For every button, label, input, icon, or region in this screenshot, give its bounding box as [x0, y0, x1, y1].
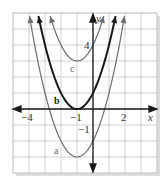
y-axis-label: y	[95, 12, 101, 24]
tick-label-x-neg1: −1	[70, 111, 82, 123]
tick-label-x-2: 2	[121, 111, 127, 123]
graph-svg: y x −4 −1 2 4 −1 a b c	[0, 0, 164, 182]
parabola-graph: y x −4 −1 2 4 −1 a b c	[0, 0, 164, 182]
tick-label-x-neg4: −4	[21, 111, 33, 123]
curve-label-a: a	[54, 145, 59, 156]
tick-label-y-4: 4	[84, 39, 90, 51]
curve-label-b: b	[54, 95, 60, 106]
x-axis-label: x	[147, 111, 153, 123]
tick-label-y-neg1: −1	[78, 123, 90, 135]
curve-label-c: c	[70, 63, 75, 74]
